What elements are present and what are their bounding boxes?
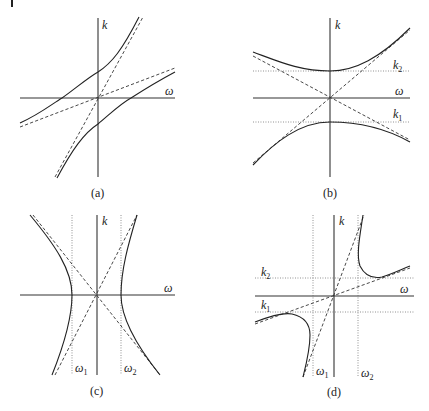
panel-caption: (c): [90, 384, 103, 398]
k-axis-label: k: [339, 214, 345, 228]
panel-d: k ω k2 k1 ω1 ω2 (d): [255, 214, 414, 399]
omega-axis-label: ω: [164, 281, 172, 295]
omega-axis-label: ω: [400, 282, 408, 296]
panel-a: k ω (a): [20, 17, 175, 200]
hyperbola-branch-upper: [253, 28, 410, 71]
hyperbola-branch-lower: [255, 314, 310, 377]
panel-caption: (a): [91, 186, 104, 200]
omega2-label: ω2: [361, 366, 373, 382]
hyperbola-branch-upper: [358, 215, 410, 278]
omega1-label: ω1: [316, 364, 328, 380]
panel-b: k ω k2 k1 (b): [253, 18, 410, 200]
dispersion-figure: k ω (a) k ω k2 k1 (b) k ω ω1 ω2 (c): [0, 0, 429, 411]
hyperbola-branch-upper: [20, 17, 139, 123]
asymptote-steep: [55, 17, 143, 177]
panel-caption: (b): [323, 186, 337, 200]
k-axis-label: k: [102, 214, 108, 228]
k-axis-label: k: [102, 18, 108, 32]
panel-c: k ω ω1 ω2 (c): [20, 214, 175, 398]
panel-caption: (d): [327, 385, 341, 399]
omega-axis-label: ω: [165, 84, 173, 98]
k2-label: k2: [393, 58, 402, 74]
omega1-label: ω1: [75, 361, 87, 377]
k-axis-label: k: [335, 18, 341, 32]
hyperbola-branch-lower: [253, 122, 410, 165]
k2-label: k2: [261, 265, 270, 281]
k1-label: k1: [261, 298, 270, 314]
omega-axis-label: ω: [395, 84, 403, 98]
hyperbola-branch-lower: [57, 72, 175, 178]
k1-label: k1: [393, 107, 402, 123]
omega2-label: ω2: [124, 361, 136, 377]
